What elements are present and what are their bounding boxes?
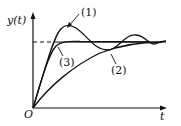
x-axis-label: t [160,110,165,123]
leader-2 [111,54,116,64]
curve-1-label: (1) [81,6,97,19]
step-response-diagram: y(t) t O (1) (3) (2) [0,0,181,126]
y-axis-label: y(t) [6,14,26,27]
y-axis-arrow-icon [31,12,36,19]
leader-3 [58,47,63,56]
origin-label: O [24,108,33,121]
curve-3-label: (3) [59,56,75,69]
curve-1 [33,26,166,108]
curve-2-label: (2) [111,64,127,77]
